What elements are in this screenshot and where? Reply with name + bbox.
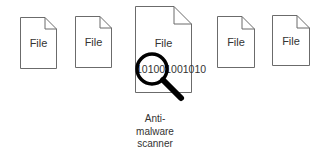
scanner-caption: Anti- malware scanner <box>125 113 185 151</box>
caption-line: Anti- <box>125 113 185 126</box>
caption-line: malware <box>125 126 185 139</box>
caption-line: scanner <box>125 138 185 151</box>
